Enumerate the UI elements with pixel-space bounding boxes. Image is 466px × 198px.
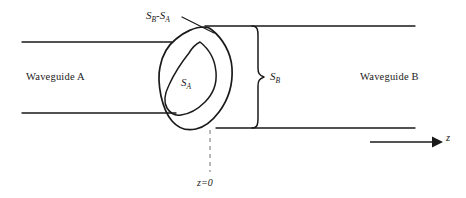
brace-sb: [252, 26, 264, 128]
region-difference-s-b: S: [146, 9, 152, 21]
area-a-label: SA: [181, 77, 191, 88]
region-difference-sub-a: A: [165, 15, 170, 24]
region-difference-label: SB-SA: [146, 10, 170, 21]
area-a-symbol: S: [181, 76, 187, 88]
area-b-subscript: B: [276, 76, 281, 85]
origin-label: z=0: [197, 178, 213, 188]
leader-line-sb-minus-sa: [182, 17, 214, 33]
area-b-symbol: S: [270, 70, 276, 82]
area-b-label: SB: [270, 71, 280, 82]
z-axis-label: z: [446, 133, 450, 144]
waveguide-a-label: Waveguide A: [26, 72, 85, 83]
region-difference-sub-b: B: [152, 15, 157, 24]
figure-vector-canvas: [0, 0, 466, 198]
waveguide-junction-figure: Waveguide A Waveguide B SB-SA SA SB z z=…: [0, 0, 466, 198]
z-axis-arrow-head: [432, 137, 443, 148]
area-a-subscript: A: [187, 82, 192, 91]
waveguide-b-label: Waveguide B: [360, 72, 419, 83]
